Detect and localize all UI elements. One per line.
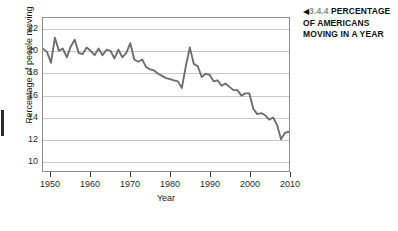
x-axis-tick-mark [90,172,91,177]
x-axis-tick-mark [50,172,51,177]
x-axis-tick-mark [170,172,171,177]
x-axis-tick-label: 1970 [110,179,150,190]
x-axis-tick-label: 2010 [270,179,310,190]
x-axis-tick-label: 1950 [30,179,70,190]
x-axis-tick-mark [290,172,291,177]
caption-line-1: ◀3.4.4 PERCENTAGE [303,6,395,18]
x-axis-tick-marks [42,172,290,178]
x-axis-tick-label: 1990 [190,179,230,190]
series-line-percentage-moving [43,18,289,171]
figure-page: 10121416182022 Percentage of people movi… [0,0,398,231]
x-axis-tick-label: 2000 [230,179,270,190]
y-axis-title: Percentage of people moving [24,0,34,140]
caption-number: 3.4.4 [309,6,328,16]
plot-wrapper [42,17,290,172]
x-axis-tick-label: 1960 [70,179,110,190]
x-axis-tick-mark [130,172,131,177]
x-axis-tick-labels: 1950196019701980199020002010 [42,179,290,191]
plot-area [42,17,290,172]
caption-text-1: PERCENTAGE [329,6,391,16]
caption-line-3: MOVING IN A YEAR [303,29,395,41]
caption-line-2: OF AMERICANS [303,18,395,30]
x-axis-tick-mark [250,172,251,177]
x-axis-tick-label: 1980 [150,179,190,190]
y-axis-tick-label: 10 [22,156,38,165]
x-axis-title: Year [42,193,290,203]
figure-caption: ◀3.4.4 PERCENTAGE OF AMERICANS MOVING IN… [303,6,395,41]
line-chart-figure: 10121416182022 Percentage of people movi… [0,0,300,231]
x-axis-tick-mark [210,172,211,177]
